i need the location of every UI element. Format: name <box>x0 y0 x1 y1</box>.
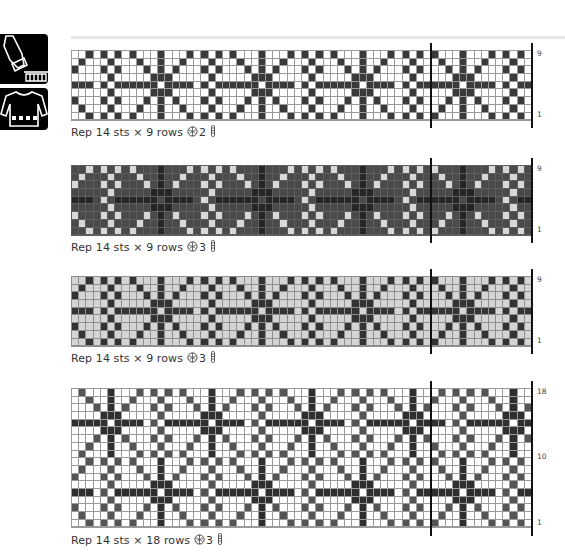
repeat-info-text: Rep 14 sts × 9 rows <box>71 352 183 365</box>
repeat-start-marker <box>430 269 432 354</box>
chart-grid <box>71 388 533 528</box>
row-number-label: 9 <box>537 275 542 284</box>
row-number-label: 1 <box>537 225 542 234</box>
knitting-chart-2 <box>71 165 533 236</box>
chart-grid <box>71 276 533 347</box>
repeat-info-text: Rep 14 sts × 9 rows <box>71 241 183 254</box>
chart-caption: Rep 14 sts × 9 rows3 <box>71 240 216 255</box>
row-number-label: 1 <box>537 336 542 345</box>
repeat-start-marker <box>430 158 432 243</box>
needle-icon <box>210 351 216 366</box>
chart-caption: Rep 14 sts × 9 rows3 <box>71 351 216 366</box>
yarn-ball-icon <box>187 126 198 140</box>
needle-icon <box>217 533 223 548</box>
chart-caption: Rep 14 sts × 9 rows2 <box>71 125 216 140</box>
knitting-chart-1 <box>71 50 533 121</box>
repeat-info-text: Rep 14 sts × 18 rows <box>71 534 190 547</box>
repeat-end-marker <box>531 381 533 536</box>
sweater-icon <box>0 88 48 130</box>
colors-count: 3 <box>206 534 213 547</box>
repeat-end-marker <box>531 158 533 243</box>
colors-count: 3 <box>199 352 206 365</box>
repeat-end-marker <box>531 269 533 354</box>
sleeve-cuff-icon <box>0 34 48 84</box>
needle-icon <box>210 125 216 140</box>
row-number-label: 10 <box>537 452 547 461</box>
repeat-start-marker <box>430 43 432 128</box>
needle-icon <box>210 240 216 255</box>
repeat-start-marker <box>430 381 432 536</box>
repeat-info-text: Rep 14 sts × 9 rows <box>71 126 183 139</box>
colors-count: 2 <box>199 126 206 139</box>
chart-caption: Rep 14 sts × 18 rows3 <box>71 533 223 548</box>
row-number-label: 1 <box>537 518 542 527</box>
top-divider <box>71 36 565 39</box>
colors-count: 3 <box>199 241 206 254</box>
yarn-ball-icon <box>187 352 198 366</box>
sweater-tab[interactable] <box>0 88 48 130</box>
chart-grid <box>71 50 533 121</box>
row-number-label: 18 <box>537 387 547 396</box>
repeat-end-marker <box>531 43 533 128</box>
row-number-label: 9 <box>537 49 542 58</box>
knitting-chart-4 <box>71 388 533 528</box>
yarn-ball-icon <box>187 241 198 255</box>
row-number-label: 9 <box>537 164 542 173</box>
yarn-ball-icon <box>194 534 205 548</box>
row-number-label: 1 <box>537 110 542 119</box>
chart-grid <box>71 165 533 236</box>
sleeve-tab[interactable] <box>0 34 48 84</box>
knitting-chart-3 <box>71 276 533 347</box>
